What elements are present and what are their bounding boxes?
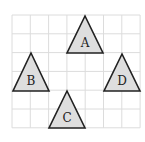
triangle-a-label: A	[80, 36, 90, 50]
triangle-b-label: B	[27, 74, 36, 88]
triangle-b: B	[13, 53, 49, 91]
triangle-d: D	[104, 54, 140, 91]
triangle-d-label: D	[117, 74, 127, 88]
triangle-c-label: C	[62, 111, 71, 125]
grid-diagram: A B C D	[0, 0, 145, 142]
triangle-a: A	[67, 16, 103, 53]
